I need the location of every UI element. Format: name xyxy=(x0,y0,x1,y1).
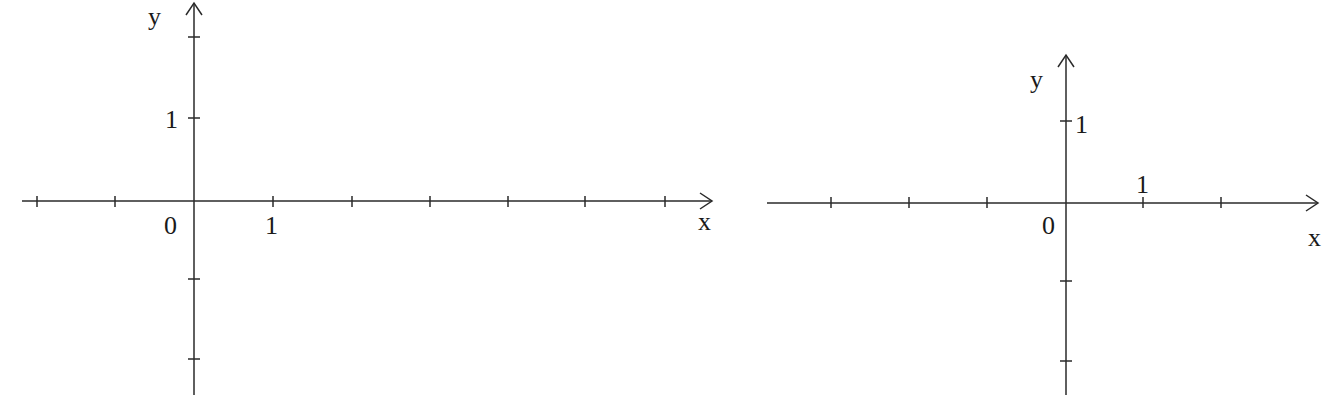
left-coordinate-plane: y x 0 1 1 xyxy=(22,2,712,395)
left-origin-label: 0 xyxy=(164,211,177,240)
right-y-unit-label: 1 xyxy=(1075,110,1088,139)
left-y-unit-label: 1 xyxy=(165,105,178,134)
right-x-label: x xyxy=(1308,223,1321,252)
right-origin-label: 0 xyxy=(1042,211,1055,240)
right-y-label: y xyxy=(1030,65,1043,94)
left-y-label: y xyxy=(148,2,161,31)
left-x-label: x xyxy=(698,207,711,236)
right-coordinate-plane: y x 0 1 1 xyxy=(767,55,1321,395)
left-x-unit-label: 1 xyxy=(265,211,278,240)
right-x-unit-label: 1 xyxy=(1136,170,1149,199)
coordinate-planes: y x 0 1 1 y x 0 1 1 xyxy=(0,0,1333,410)
